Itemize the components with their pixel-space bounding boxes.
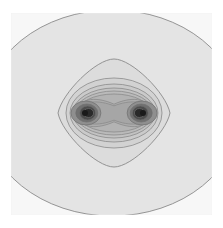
contour-plot-svg xyxy=(0,0,223,228)
left-center-core xyxy=(82,110,88,116)
contour-plot xyxy=(0,0,223,228)
right-center-core xyxy=(140,110,146,116)
plot-area xyxy=(0,10,223,216)
